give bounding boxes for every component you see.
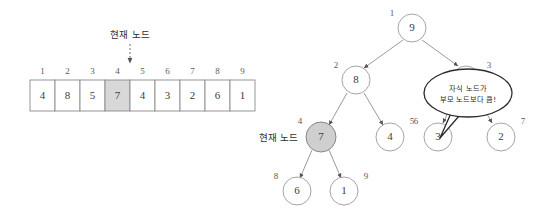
tree-edge <box>364 93 383 125</box>
tree-node-8[interactable]: 6 8 <box>274 171 311 205</box>
tree-edge <box>422 40 458 66</box>
tree-edge <box>300 150 312 178</box>
tree-node-index: 1 <box>390 8 395 18</box>
array-cell-value: 4 <box>140 89 146 101</box>
array-cell-value: 6 <box>215 89 221 101</box>
tree-current-node-label: 현재 노드 <box>259 132 298 143</box>
tree-node-index: 2 <box>334 60 339 70</box>
array-index-cell: 5 <box>140 66 145 76</box>
array-panel: 현재 노드 1 2 3 4 5 6 7 8 9 <box>30 29 255 111</box>
speech-bubble-body <box>424 69 512 117</box>
tree-node-index: 8 <box>274 171 279 181</box>
tree-edge <box>329 93 347 125</box>
tree-node-9[interactable]: 1 9 <box>330 171 369 205</box>
figure-svg: 현재 노드 1 2 3 4 5 6 7 8 9 <box>0 0 548 220</box>
array-cell-value: 5 <box>90 89 96 101</box>
array-cell-value: 4 <box>40 89 46 101</box>
tree-node-index: 4 <box>298 116 303 126</box>
array-cell-value: 1 <box>240 89 246 101</box>
array-index-cell: 7 <box>190 66 195 76</box>
array-index-cell: 4 <box>115 66 120 76</box>
tree-node-value: 2 <box>498 130 504 142</box>
array-index-cell: 2 <box>65 66 70 76</box>
tree-node-index: 3 <box>487 60 492 70</box>
tree-node-index: 9 <box>364 171 369 181</box>
array-current-node-label: 현재 노드 <box>110 29 149 40</box>
tree-node-5[interactable]: 4 5 <box>376 116 415 151</box>
tree-node-value: 1 <box>341 184 347 196</box>
tree-node-value: 6 <box>294 184 300 196</box>
tree-panel: 9 1 8 2 3 7 4 현재 노드 <box>259 8 526 205</box>
tree-node-6[interactable]: 3 6 <box>414 116 452 151</box>
array-cells: 4 8 5 7 4 3 2 6 1 <box>30 80 255 111</box>
tree-node-7[interactable]: 2 7 <box>487 116 526 151</box>
array-index-cell: 1 <box>40 66 45 76</box>
tree-node-value: 9 <box>409 21 415 33</box>
figure-canvas: 현재 노드 1 2 3 4 5 6 7 8 9 <box>0 0 548 220</box>
array-cell-value: 8 <box>65 89 71 101</box>
tree-node-2[interactable]: 8 2 <box>334 60 370 94</box>
tree-node-index: 7 <box>521 116 526 126</box>
array-index-cell: 9 <box>240 66 245 76</box>
tree-node-4-current[interactable]: 7 4 현재 노드 <box>259 116 336 152</box>
array-cell-value: 7 <box>115 89 121 101</box>
tree-node-value: 4 <box>387 130 393 142</box>
array-cell-value: 2 <box>190 89 196 101</box>
array-index-cell: 3 <box>90 66 95 76</box>
speech-bubble-line-1: 자식 노드가 <box>449 84 486 93</box>
tree-node-index: 6 <box>414 116 419 126</box>
array-index-cell: 6 <box>165 66 170 76</box>
tree-node-1[interactable]: 9 1 <box>390 8 426 42</box>
tree-node-value: 7 <box>318 130 324 142</box>
array-index-row: 1 2 3 4 5 6 7 8 9 <box>40 66 245 76</box>
array-cell-value: 3 <box>165 89 171 101</box>
tree-node-value: 8 <box>353 73 359 85</box>
tree-edge <box>364 40 403 68</box>
tree-edge <box>329 150 341 178</box>
speech-bubble-line-2: 부모 노드보다 큼! <box>440 95 496 104</box>
array-index-cell: 8 <box>215 66 220 76</box>
